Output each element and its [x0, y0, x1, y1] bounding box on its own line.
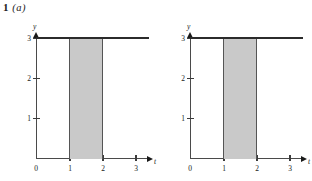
y-tick-2 — [33, 78, 40, 80]
y-tick-1 — [33, 118, 40, 120]
x-axis-arrow-icon — [301, 156, 307, 162]
y-axis-label: y — [33, 22, 36, 31]
y-axis-line — [36, 36, 37, 159]
x-axis-arrow-icon — [147, 156, 153, 162]
y-ticklabel-2: 2 — [22, 74, 31, 83]
y-ticklabel-2: 2 — [176, 74, 185, 83]
constant-function-line — [190, 37, 303, 39]
y-axis-label: y — [187, 22, 190, 31]
x-ticklabel-3: 3 — [131, 164, 141, 173]
shaded-region — [69, 38, 103, 159]
y-tick-1 — [187, 118, 194, 120]
x-ticklabel-1: 1 — [65, 164, 75, 173]
y-axis-line — [190, 36, 191, 159]
constant-function-line — [36, 37, 149, 39]
chart-right: y t 1 2 3 0 1 2 3 — [168, 16, 308, 176]
x-axis-label: t — [154, 157, 156, 166]
x-ticklabel-3: 3 — [285, 164, 295, 173]
y-ticklabel-1: 1 — [22, 114, 31, 123]
x-ticklabel-1: 1 — [219, 164, 229, 173]
y-tick-2 — [187, 78, 194, 80]
x-axis-label: t — [308, 157, 310, 166]
y-ticklabel-1: 1 — [176, 114, 185, 123]
x-tick-3 — [289, 155, 291, 161]
x-ticklabel-2: 2 — [98, 164, 108, 173]
shaded-region — [223, 38, 257, 159]
x-ticklabel-0: 0 — [31, 164, 41, 173]
x-ticklabel-0: 0 — [185, 164, 195, 173]
figure-label: 1 (a) — [3, 1, 26, 13]
x-tick-3 — [135, 155, 137, 161]
chart-left: y t 1 2 3 0 1 2 3 — [14, 16, 154, 176]
x-ticklabel-2: 2 — [252, 164, 262, 173]
y-ticklabel-3: 3 — [22, 34, 31, 43]
figure-part-letter: (a) — [12, 2, 26, 13]
y-ticklabel-3: 3 — [176, 34, 185, 43]
